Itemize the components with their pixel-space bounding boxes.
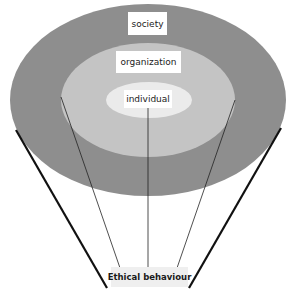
organization-label: organization bbox=[116, 51, 181, 73]
society-label: society bbox=[128, 12, 167, 35]
individual-label: individual bbox=[124, 90, 172, 108]
nested-ellipse-diagram bbox=[0, 0, 295, 298]
ethical-behaviour-label: Ethical behaviour bbox=[111, 267, 188, 287]
